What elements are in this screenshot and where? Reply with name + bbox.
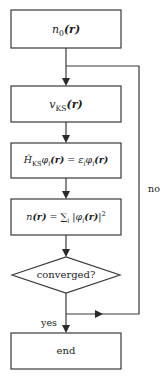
label-part: 2 [102,210,106,218]
label-part: (r) [84,211,98,222]
label-part: KS [55,104,66,113]
label-part: (r) [50,154,64,165]
label-part: (r) [67,98,83,111]
label-part: (r) [94,154,108,165]
arrow-head-icon [62,191,70,199]
arrow-head-icon [62,135,70,143]
arrow-head-icon [62,249,70,257]
label-no: no [148,184,160,194]
label-part: KS [32,160,42,168]
label-part: i [67,217,69,225]
flowchart [0,0,167,379]
label-part: (r) [64,23,80,36]
arrow-head-icon [62,78,70,86]
label-ks-potential: vKS(r) [49,99,82,110]
label-density: n(r) = ∑i |φi(r)|2 [26,212,106,222]
arrow-head-icon [95,310,103,318]
label-part: = [46,211,60,222]
label-ks-equation: ĤKSφi(r) = εiφi(r) [24,155,109,165]
label-initial-density: n0(r) [52,24,80,35]
label-converged: converged? [37,270,96,280]
label-part: = [64,154,78,165]
label-end: end [57,346,76,356]
label-part: φ [76,211,83,222]
label-part: (r) [32,211,46,222]
label-part: ∑ [60,211,67,222]
label-yes: yes [41,318,57,328]
arrow-head-icon [62,325,70,333]
